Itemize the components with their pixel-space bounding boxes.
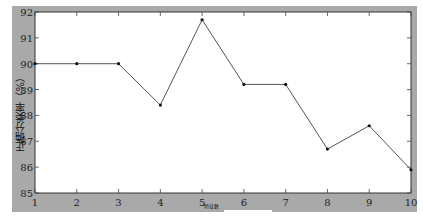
x-tick-label: 10 xyxy=(405,197,418,208)
x-tick-label: 2 xyxy=(74,197,80,208)
data-point xyxy=(368,124,371,127)
data-point xyxy=(201,18,204,21)
x-axis-label: 特征数 xyxy=(204,202,219,209)
data-point xyxy=(75,62,78,65)
x-tick-label: 3 xyxy=(115,197,121,208)
line-chart: 123456789108586878889909192 xyxy=(0,0,423,222)
x-tick-label: 8 xyxy=(324,197,330,208)
data-point xyxy=(159,103,162,106)
y-tick-label: 85 xyxy=(20,188,33,199)
x-tick-label: 7 xyxy=(282,197,288,208)
y-axis-label: 正确分类率（%） xyxy=(13,72,27,152)
x-tick-label: 9 xyxy=(366,197,372,208)
data-point xyxy=(409,168,412,171)
x-tick-label: 4 xyxy=(157,197,163,208)
y-tick-label: 92 xyxy=(20,7,33,18)
y-tick-label: 91 xyxy=(20,33,33,44)
y-tick-label: 90 xyxy=(20,59,33,70)
y-tick-label: 86 xyxy=(20,162,33,173)
data-point xyxy=(117,62,120,65)
data-point xyxy=(326,147,329,150)
x-tick-label: 6 xyxy=(241,197,247,208)
plot-area xyxy=(35,12,411,193)
data-point xyxy=(242,83,245,86)
data-point xyxy=(33,62,36,65)
data-point xyxy=(284,83,287,86)
